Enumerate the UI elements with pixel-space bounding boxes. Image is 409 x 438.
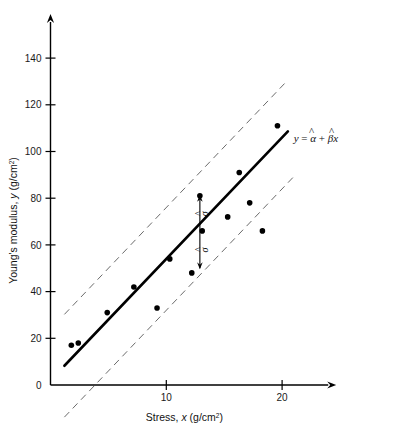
data-point — [131, 284, 137, 290]
y-axis-tick-label: 60 — [30, 240, 42, 251]
equation-plus: + — [316, 132, 328, 144]
y-axis-title-units-close: ) — [7, 157, 19, 161]
data-point — [167, 256, 173, 262]
data-point — [199, 228, 205, 234]
chart-canvas: 2040608010012014001020 ^σ^σ Stress, x (g… — [0, 0, 409, 438]
y-axis-title: Young's modulus, y (g/cm2) — [7, 157, 19, 284]
x-axis-title-units-close: ) — [219, 411, 223, 423]
data-point — [189, 270, 195, 276]
y-axis-tick-label: 40 — [30, 286, 42, 297]
y-axis-tick-label: 100 — [25, 146, 42, 157]
data-point — [104, 310, 110, 316]
data-point — [197, 193, 203, 199]
data-point — [75, 340, 81, 346]
x-axis-title-units: (g/cm — [187, 411, 216, 423]
data-point — [69, 343, 75, 349]
y-axis-tick-label: 140 — [25, 53, 42, 64]
origin-zero-label: 0 — [36, 380, 42, 391]
data-point — [260, 228, 266, 234]
data-point — [275, 123, 281, 129]
y-axis-title-group: Young's modulus, y (g/cm2) — [7, 157, 19, 284]
data-point — [225, 214, 231, 220]
data-point — [236, 170, 242, 176]
x-axis-tick-label: 10 — [161, 392, 173, 403]
y-axis-title-units: (g/cm — [7, 164, 19, 193]
scatter-plot-figure: 2040608010012014001020 ^σ^σ Stress, x (g… — [0, 0, 409, 438]
y-axis-tick-label: 80 — [30, 193, 42, 204]
data-point — [154, 305, 160, 311]
x-axis-title: Stress, x (g/cm2) — [146, 411, 223, 423]
y-axis-title-main: Young's modulus, — [7, 199, 19, 284]
x-axis-tick-label: 20 — [277, 392, 289, 403]
data-point — [247, 200, 253, 206]
x-axis-title-main: Stress, — [146, 411, 182, 423]
y-axis-tick-label: 20 — [30, 333, 42, 344]
equation-y: y — [293, 132, 302, 144]
y-axis-tick-label: 120 — [25, 99, 42, 110]
